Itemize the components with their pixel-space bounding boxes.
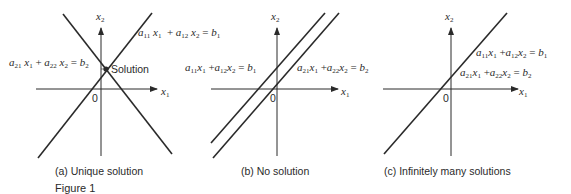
figure-label: Figure 1 (55, 183, 95, 194)
panel-a-equation-1: a11 x1 + a12 x2 = b1 (138, 27, 220, 40)
panel-c-equation-2: a21x1 +a22x2 = b2 (460, 67, 531, 80)
panel-c-graph (383, 13, 518, 156)
panel-a-equation-2: a21 x1 + a22 x2 = b2 (9, 57, 89, 70)
panel-c-origin-label: 0 (443, 93, 449, 104)
panel-b-y-axis-label: x2 (271, 11, 279, 24)
panel-a-line-2 (38, 13, 152, 158)
panel-b-equation-2: a21x1 +a22x2 = b2 (297, 62, 368, 75)
panel-c-x-axis-label: x1 (519, 86, 527, 99)
panel-b-caption: (b) No solution (241, 166, 309, 177)
panel-b-equation-1: a11x1 +a12x2 = b1 (185, 62, 256, 75)
panel-b-line-2 (213, 13, 339, 158)
panel-c-caption: (c) Infinitely many solutions (384, 166, 511, 177)
panel-c-y-axis-label: x2 (445, 11, 453, 24)
panel-b-x-axis-label: x1 (341, 86, 349, 99)
panel-b-line-1 (211, 13, 325, 143)
panel-b-graph (211, 13, 339, 158)
solution-label: Solution (111, 64, 149, 75)
panel-a-x-axis-label: x1 (161, 86, 169, 99)
panel-b-origin-label: 0 (270, 93, 276, 104)
solution-point (103, 66, 108, 71)
panel-c-coincident-line (384, 13, 507, 154)
panel-a-origin-label: 0 (92, 93, 98, 104)
panel-a-y-axis-label: x2 (96, 11, 104, 24)
panel-a-caption: (a) Unique solution (55, 166, 143, 177)
panel-c-equation-1: a11x1 +a12x2 = b1 (476, 47, 547, 60)
